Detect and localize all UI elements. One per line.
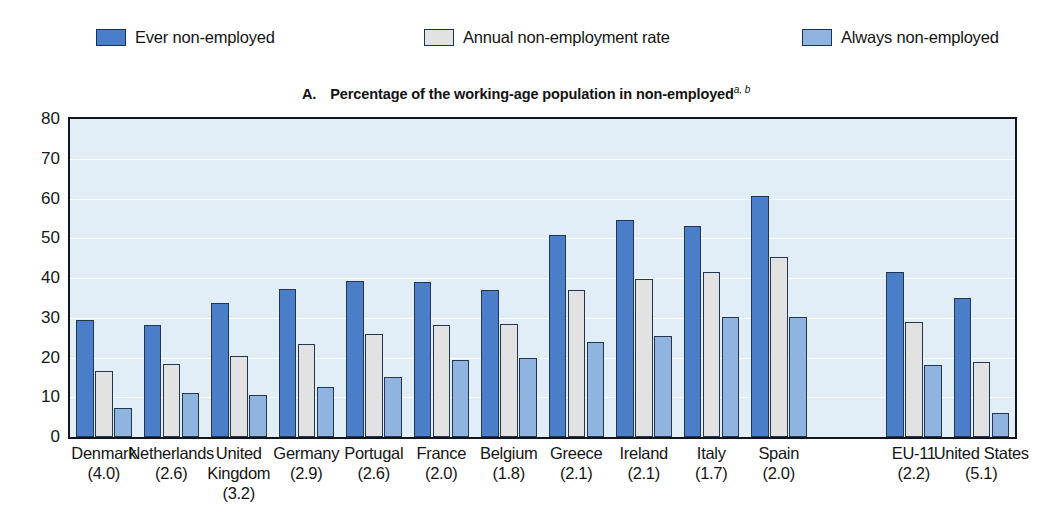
x-axis-label-value: (3.2): [190, 483, 287, 503]
legend-label-ever-non-employed: Ever non-employed: [135, 28, 275, 47]
legend-label-annual-non-employment-rate: Annual non-employment rate: [463, 28, 670, 47]
bar-germany-annual-non-employment-rate: [298, 344, 316, 437]
bar-greece-always-non-employed: [587, 342, 605, 437]
bar-france-always-non-employed: [452, 360, 470, 437]
bar-france-annual-non-employment-rate: [433, 325, 451, 437]
x-axis-label-united-states: United States(5.1): [933, 443, 1030, 483]
bar-ireland-annual-non-employment-rate: [635, 279, 653, 437]
x-axis-label-value: (5.1): [933, 463, 1030, 483]
bar-belgium-always-non-employed: [519, 358, 537, 438]
x-axis-label-value: (2.0): [730, 463, 827, 483]
panel-footnote-marks: a, b: [734, 84, 750, 95]
bar-netherlands-annual-non-employment-rate: [163, 364, 181, 437]
bar-eu-11-annual-non-employment-rate: [905, 322, 923, 437]
panel-letter: A.: [302, 86, 316, 102]
bar-greece-ever-non-employed: [549, 235, 567, 437]
y-axis-tick-label: 30: [0, 308, 60, 328]
bar-spain-ever-non-employed: [751, 196, 769, 437]
x-axis-label-name: Spain: [730, 443, 827, 463]
bar-denmark-annual-non-employment-rate: [95, 371, 113, 437]
x-axis-label-spain: Spain(2.0): [730, 443, 827, 483]
legend-swatch-ever-non-employed: [96, 29, 126, 46]
bar-spain-always-non-employed: [789, 317, 807, 437]
legend-item-ever-non-employed: Ever non-employed: [96, 28, 275, 47]
bar-italy-always-non-employed: [722, 317, 740, 437]
x-axis-label-name: United States: [933, 443, 1030, 463]
bar-united-kingdom-ever-non-employed: [211, 303, 229, 437]
y-axis-tick-label: 70: [0, 149, 60, 169]
y-axis-tick-label: 50: [0, 228, 60, 248]
bar-portugal-ever-non-employed: [346, 281, 364, 437]
chart-legend: Ever non-employed Annual non-employment …: [0, 26, 1052, 60]
x-axis-labels: Denmark(4.0)Netherlands(2.6)United Kingd…: [70, 443, 1015, 525]
bar-belgium-ever-non-employed: [481, 290, 499, 437]
bar-germany-always-non-employed: [317, 387, 335, 437]
bar-france-ever-non-employed: [414, 282, 432, 437]
y-axis-tick-label: 40: [0, 268, 60, 288]
bar-netherlands-always-non-employed: [182, 393, 200, 437]
legend-swatch-always-non-employed: [802, 29, 832, 46]
bar-united-states-annual-non-employment-rate: [973, 362, 991, 437]
bar-portugal-annual-non-employment-rate: [365, 334, 383, 437]
bars-layer: [70, 119, 1015, 437]
panel-title-text: Percentage of the working-age population…: [330, 86, 734, 102]
legend-item-annual-non-employment-rate: Annual non-employment rate: [424, 28, 670, 47]
legend-item-always-non-employed: Always non-employed: [802, 28, 999, 47]
legend-label-always-non-employed: Always non-employed: [841, 28, 999, 47]
bar-ireland-ever-non-employed: [616, 220, 634, 437]
bar-italy-ever-non-employed: [684, 226, 702, 437]
y-axis-tick-label: 0: [0, 427, 60, 447]
bar-eu-11-always-non-employed: [924, 365, 942, 437]
bar-portugal-always-non-employed: [384, 377, 402, 437]
bar-belgium-annual-non-employment-rate: [500, 324, 518, 437]
y-axis-tick-label: 60: [0, 189, 60, 209]
y-axis-tick-label: 10: [0, 387, 60, 407]
bar-eu-11-ever-non-employed: [886, 272, 904, 437]
bar-united-states-ever-non-employed: [954, 298, 972, 437]
bar-ireland-always-non-employed: [654, 336, 672, 437]
bar-united-kingdom-annual-non-employment-rate: [230, 356, 248, 437]
legend-swatch-annual-non-employment-rate: [424, 29, 454, 46]
bar-denmark-ever-non-employed: [76, 320, 94, 437]
bar-united-kingdom-always-non-employed: [249, 395, 267, 437]
panel-title: A.Percentage of the working-age populati…: [0, 84, 1052, 102]
bar-greece-annual-non-employment-rate: [568, 290, 586, 437]
bar-denmark-always-non-employed: [114, 408, 132, 437]
y-axis: 01020304050607080: [0, 117, 60, 439]
y-axis-tick-label: 20: [0, 348, 60, 368]
bar-netherlands-ever-non-employed: [144, 325, 162, 437]
bar-spain-annual-non-employment-rate: [770, 257, 788, 437]
y-axis-tick-label: 80: [0, 109, 60, 129]
bar-united-states-always-non-employed: [992, 413, 1010, 437]
bar-germany-ever-non-employed: [279, 289, 297, 437]
bar-italy-annual-non-employment-rate: [703, 272, 721, 437]
